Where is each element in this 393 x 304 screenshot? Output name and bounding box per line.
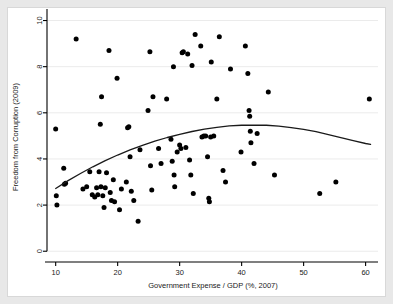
data-point bbox=[317, 191, 322, 196]
data-point bbox=[104, 170, 109, 175]
data-point bbox=[129, 189, 134, 194]
data-point bbox=[106, 48, 111, 53]
data-point bbox=[203, 133, 208, 138]
data-point bbox=[54, 203, 59, 208]
y-tick-label: 0 bbox=[36, 249, 45, 253]
data-point bbox=[172, 184, 177, 189]
data-point bbox=[187, 158, 192, 163]
data-point bbox=[99, 94, 104, 99]
x-tick-label: 40 bbox=[237, 268, 245, 277]
data-point bbox=[214, 96, 219, 101]
data-point bbox=[147, 49, 152, 54]
x-tick-label: 50 bbox=[299, 268, 307, 277]
scatter-plot: 0246810102030405060 Government Expense /… bbox=[0, 0, 393, 304]
data-point bbox=[190, 63, 195, 68]
data-point bbox=[126, 124, 131, 129]
data-point bbox=[137, 147, 142, 152]
data-point bbox=[193, 32, 198, 37]
y-tick-label: 6 bbox=[36, 111, 45, 115]
data-point bbox=[252, 161, 257, 166]
data-point bbox=[98, 184, 103, 189]
data-point bbox=[84, 184, 89, 189]
data-point bbox=[247, 108, 252, 113]
data-point bbox=[159, 161, 164, 166]
data-point bbox=[148, 163, 153, 168]
data-point bbox=[170, 159, 175, 164]
data-point bbox=[239, 150, 244, 155]
data-point bbox=[367, 96, 372, 101]
data-point bbox=[198, 43, 203, 48]
data-point bbox=[185, 51, 190, 56]
data-point bbox=[211, 133, 216, 138]
data-point bbox=[112, 199, 117, 204]
data-point bbox=[272, 173, 277, 178]
data-point bbox=[131, 198, 136, 203]
x-tick-label: 10 bbox=[52, 268, 60, 277]
data-point bbox=[119, 186, 124, 191]
data-point bbox=[266, 90, 271, 95]
data-point bbox=[100, 193, 105, 198]
data-point bbox=[128, 154, 133, 159]
y-tick-label: 8 bbox=[36, 65, 45, 69]
data-point bbox=[94, 185, 99, 190]
data-point bbox=[248, 140, 253, 145]
data-point bbox=[228, 66, 233, 71]
data-point bbox=[178, 146, 183, 151]
data-point bbox=[136, 219, 141, 224]
data-point bbox=[205, 154, 210, 159]
data-point bbox=[209, 60, 214, 65]
y-tick-label: 2 bbox=[36, 203, 45, 207]
data-point bbox=[183, 145, 188, 150]
data-point bbox=[207, 199, 212, 204]
data-point bbox=[54, 193, 59, 198]
data-point bbox=[98, 122, 103, 127]
data-point bbox=[61, 166, 66, 171]
data-point bbox=[164, 96, 169, 101]
data-point bbox=[245, 71, 250, 76]
data-point bbox=[188, 173, 193, 178]
tick-labels: 0246810102030405060 bbox=[36, 16, 370, 277]
data-point bbox=[111, 177, 116, 182]
data-point bbox=[175, 150, 180, 155]
data-point bbox=[150, 94, 155, 99]
axis-ticks bbox=[43, 21, 366, 266]
data-point bbox=[53, 126, 58, 131]
data-point bbox=[108, 190, 113, 195]
x-tick-label: 60 bbox=[361, 268, 369, 277]
data-point bbox=[102, 205, 107, 210]
data-point bbox=[146, 108, 151, 113]
x-tick-label: 30 bbox=[175, 268, 183, 277]
y-tick-label: 4 bbox=[36, 157, 45, 161]
x-axis-title: Government Expense / GDP (%, 2007) bbox=[148, 281, 278, 290]
data-point bbox=[74, 36, 79, 41]
data-point bbox=[223, 180, 228, 185]
data-point bbox=[333, 180, 338, 185]
data-point bbox=[103, 185, 108, 190]
data-point bbox=[115, 76, 120, 81]
data-point bbox=[124, 180, 129, 185]
data-point bbox=[171, 64, 176, 69]
data-point bbox=[181, 49, 186, 54]
x-tick-label: 20 bbox=[113, 268, 121, 277]
data-point bbox=[95, 192, 100, 197]
data-point bbox=[117, 207, 122, 212]
y-axis-title: Freedom from Corruption (2009) bbox=[11, 83, 20, 191]
data-point bbox=[247, 114, 252, 119]
data-point bbox=[191, 191, 196, 196]
data-point bbox=[221, 168, 226, 173]
data-point bbox=[97, 169, 102, 174]
data-point bbox=[255, 131, 260, 136]
data-point bbox=[248, 129, 253, 134]
data-point bbox=[217, 34, 222, 39]
data-point bbox=[243, 43, 248, 48]
data-point bbox=[172, 173, 177, 178]
y-tick-label: 10 bbox=[36, 16, 45, 24]
screenshot-root: 0246810102030405060 Government Expense /… bbox=[0, 0, 393, 304]
data-point bbox=[149, 188, 154, 193]
data-point bbox=[156, 146, 161, 151]
